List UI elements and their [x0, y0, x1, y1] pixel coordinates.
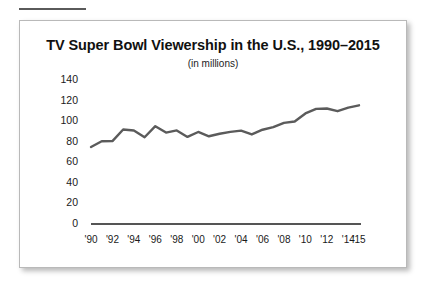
plot-area: 020406080100120140 '90'92'94'96'98'00'02… [20, 21, 408, 269]
figure-card: TV Super Bowl Viewership in the U.S., 19… [19, 20, 407, 268]
top-divider-rule [19, 8, 86, 10]
viewership-line-series [20, 21, 408, 269]
series-polyline [91, 105, 359, 147]
